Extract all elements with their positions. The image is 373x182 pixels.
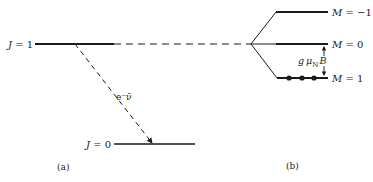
branch-m-minus1	[251, 12, 328, 44]
sublevel-label-m-minus1: M = −1	[331, 7, 372, 18]
population-dot	[286, 75, 291, 80]
level-label-j1: J = 1	[6, 39, 33, 50]
population-dot	[299, 75, 304, 80]
population-dot	[311, 75, 316, 80]
sublevel-label-m0: M = 0	[331, 39, 363, 50]
nuclear-level-diagram: J = 1 e⁻ν̄ J = 0 (a) M = −1 M = 0	[0, 0, 373, 182]
panel-a: J = 1 e⁻ν̄ J = 0 (a)	[6, 39, 195, 172]
decay-arrow	[75, 44, 152, 143]
panel-b: M = −1 M = 0 M = 1 gμNB (b)	[251, 7, 372, 171]
level-label-j0: J = 0	[84, 139, 111, 150]
caption-a: (a)	[57, 162, 69, 172]
splitting-label: gμNB	[298, 55, 326, 69]
population-dots	[286, 75, 316, 80]
sublevel-label-m1: M = 1	[331, 73, 363, 84]
caption-b: (b)	[286, 161, 299, 171]
decay-label: e⁻ν̄	[116, 92, 132, 102]
